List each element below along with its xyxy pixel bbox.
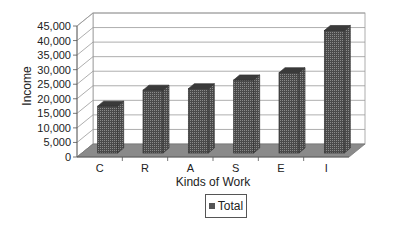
svg-text:45,000: 45,000 <box>37 20 71 32</box>
svg-text:S: S <box>232 162 239 174</box>
svg-text:A: A <box>187 162 195 174</box>
svg-text:0: 0 <box>65 151 71 163</box>
svg-text:Kinds of Work: Kinds of Work <box>176 175 251 189</box>
svg-text:15,000: 15,000 <box>37 107 71 119</box>
legend-label: Total <box>218 199 243 213</box>
bar-chart: 05,00010,00015,00020,00025,00030,00035,0… <box>0 0 404 228</box>
bar-R <box>143 85 169 153</box>
bar-C <box>98 101 124 153</box>
svg-text:Income: Income <box>20 66 34 106</box>
svg-text:20,000: 20,000 <box>37 93 71 105</box>
legend-swatch <box>209 203 215 209</box>
svg-text:25,000: 25,000 <box>37 78 71 90</box>
svg-text:I: I <box>325 162 328 174</box>
svg-text:30,000: 30,000 <box>37 64 71 76</box>
bar-S <box>234 75 260 153</box>
svg-text:35,000: 35,000 <box>37 49 71 61</box>
svg-text:5,000: 5,000 <box>43 136 71 148</box>
svg-text:C: C <box>96 162 104 174</box>
svg-text:40,000: 40,000 <box>37 35 71 47</box>
svg-text:R: R <box>141 162 149 174</box>
bar-A <box>188 84 214 153</box>
svg-text:E: E <box>277 162 284 174</box>
svg-text:10,000: 10,000 <box>37 122 71 134</box>
bar-I <box>324 25 350 153</box>
legend: Total <box>205 194 247 218</box>
bar-E <box>279 68 305 153</box>
